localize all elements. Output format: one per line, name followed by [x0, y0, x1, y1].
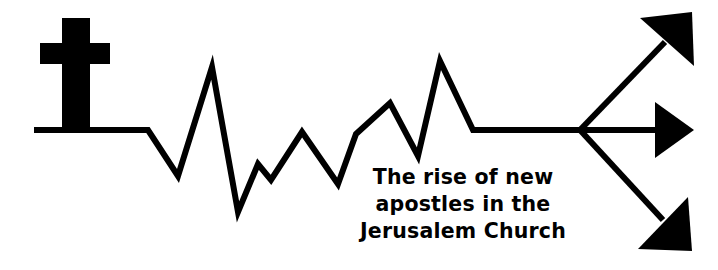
caption-line-3: Jerusalem Church — [358, 219, 566, 243]
cross-stem — [62, 18, 90, 132]
caption-line-1: The rise of new — [373, 165, 554, 189]
caption-line-2: apostles in the — [376, 192, 551, 216]
logo-graphic: The rise of new apostles in the Jerusale… — [0, 0, 718, 270]
logo-canvas: The rise of new apostles in the Jerusale… — [0, 0, 718, 270]
cross-crossbar — [40, 43, 110, 64]
title-caption: The rise of new apostles in the Jerusale… — [358, 165, 566, 243]
